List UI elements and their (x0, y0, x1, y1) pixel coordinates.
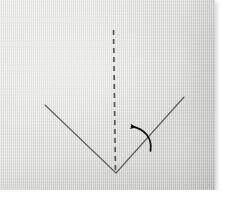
figure-root: 4 Valley fold the right corner to the (0, 0, 232, 209)
left-crease-line (45, 105, 116, 173)
fold-direction-arrow (132, 127, 151, 151)
origami-step-photo (0, 0, 215, 190)
caption-area: 4 Valley fold the right corner to the (0, 190, 232, 209)
right-crease-line (116, 97, 184, 173)
fold-diagram (0, 0, 215, 190)
valley-fold-dashed-line (114, 30, 116, 172)
